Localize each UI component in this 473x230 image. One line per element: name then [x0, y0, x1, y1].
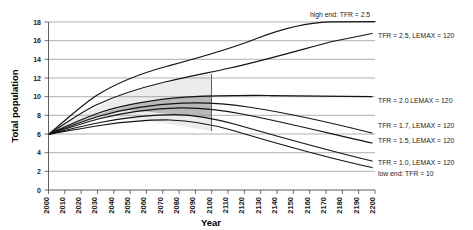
x-tick-marks [49, 190, 376, 194]
y-tick-label-2: 2 [37, 168, 41, 175]
x-tick-label-2170: 2170 [319, 197, 328, 214]
x-tick-label-2060: 2060 [139, 197, 148, 214]
x-tick-label-2080: 2080 [172, 197, 181, 214]
y-tick-label-12: 12 [33, 75, 41, 82]
series-label-tfr-2-0-lemax: TFR = 2.0.LEMAX = 120 [378, 97, 453, 104]
x-tick-label-2120: 2120 [237, 197, 246, 214]
x-tick-label-2200: 2200 [368, 197, 377, 214]
x-tick-labels: 2000201020202030204020502060207020802090… [42, 197, 378, 214]
x-tick-label-2040: 2040 [107, 197, 116, 214]
series-labels: high end: TFR = 2.5 TFR = 2.5, LEMAX = 1… [310, 11, 455, 177]
y-axis-title: Total population [9, 69, 20, 142]
series-label-tfr-1-5-lemax: TFR = 1.5, LEMAX = 120 [378, 137, 455, 144]
x-tick-label-2190: 2190 [352, 197, 361, 214]
series-label-tfr-1-0-lemax: TFR = 1.0, LEMAX = 120 [378, 159, 455, 166]
x-axis-title: Year [201, 217, 221, 228]
chart-canvas: 024681012141618 200020102020203020402050… [0, 0, 473, 230]
x-tick-label-2110: 2110 [221, 197, 230, 213]
y-tick-marks [45, 22, 49, 190]
y-tick-label-8: 8 [37, 112, 41, 119]
series-label-high-end: high end: TFR = 2.5 [310, 11, 370, 19]
y-tick-label-0: 0 [37, 187, 41, 194]
series-label-tfr-1-7-lemax: TFR = 1.7, LEMAX = 120 [378, 122, 455, 129]
x-tick-label-2030: 2030 [90, 197, 99, 214]
x-tick-label-2050: 2050 [123, 197, 132, 214]
y-tick-label-16: 16 [33, 37, 41, 44]
x-tick-label-2160: 2160 [303, 197, 312, 214]
y-tick-label-14: 14 [33, 56, 41, 63]
y-tick-label-10: 10 [33, 93, 41, 100]
x-tick-label-2090: 2090 [188, 197, 197, 214]
x-tick-label-2070: 2070 [156, 197, 165, 214]
x-tick-label-2100: 2100 [205, 197, 214, 214]
series-label-low-end: low end: TFR = 10 [378, 170, 434, 177]
y-tick-label-4: 4 [37, 149, 41, 156]
y-tick-label-18: 18 [33, 19, 41, 26]
x-tick-label-2180: 2180 [335, 197, 344, 214]
population-projection-chart: 024681012141618 200020102020203020402050… [0, 0, 473, 230]
x-tick-label-2150: 2150 [286, 197, 295, 214]
x-tick-label-2130: 2130 [254, 197, 263, 214]
x-tick-label-2010: 2010 [58, 197, 67, 214]
x-tick-label-2140: 2140 [270, 197, 279, 214]
y-tick-labels: 024681012141618 [33, 19, 41, 194]
series-label-tfr-2-5-lemax: TFR = 2.5, LEMAX = 120 [378, 32, 455, 39]
x-tick-label-2020: 2020 [74, 197, 83, 214]
y-tick-label-6: 6 [37, 131, 41, 138]
x-tick-label-2000: 2000 [42, 197, 51, 214]
